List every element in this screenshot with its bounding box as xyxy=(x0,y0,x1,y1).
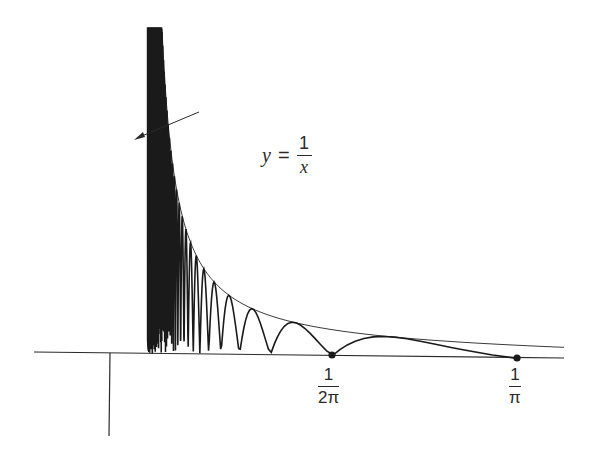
tick-denominator: 2π xyxy=(318,389,339,407)
tick-numerator: 1 xyxy=(324,366,333,384)
envelope-curve xyxy=(148,28,564,347)
tick-denominator: π xyxy=(509,389,521,407)
function-plot xyxy=(0,0,591,456)
tick-label-one-over-two-pi: 1 2π xyxy=(318,366,339,407)
eq-lhs: y xyxy=(262,144,271,167)
fraction-bar xyxy=(509,386,521,387)
eq-numerator: 1 xyxy=(299,134,309,153)
arrowhead-icon xyxy=(134,132,145,140)
eq-denominator: x xyxy=(300,158,308,177)
y-axis xyxy=(109,353,110,436)
eq-fraction: 1 x xyxy=(297,134,312,177)
eq-equals: = xyxy=(278,144,290,167)
tick-numerator: 1 xyxy=(510,366,519,384)
envelope-label: y = 1 x xyxy=(262,134,312,177)
zero-point-one-over-two-pi xyxy=(328,351,335,358)
fraction-bar xyxy=(297,155,312,156)
zero-point-one-over-pi xyxy=(513,354,520,361)
fraction-bar xyxy=(318,386,339,387)
tick-label-one-over-pi: 1 π xyxy=(509,366,521,407)
oscillating-curve xyxy=(148,28,517,358)
